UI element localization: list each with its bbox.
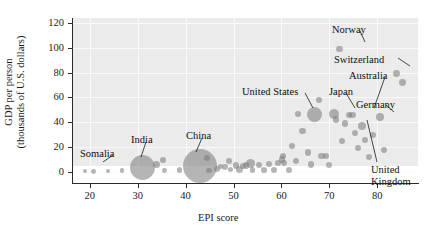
annotation-somalia: Somalia [80,148,114,159]
annotation-united-states: United States [242,86,298,97]
annotation-germany: Germany [356,99,395,110]
annotation-india: India [131,134,153,145]
annotation-norway: Norway [332,24,366,35]
annotations-layer: SomaliaIndiaChinaUnited StatesJapanAustr… [0,0,431,240]
scatter-plot-figure: 02040608010012020304050607080 GDP per pe… [0,0,431,240]
annotation-united-kingdom-line2: Kingdom [371,176,411,187]
annotation-japan: Japan [329,86,353,97]
annotation-australia: Australia [349,70,388,81]
annotation-united-kingdom-line1: United [371,164,400,175]
annotation-china: China [186,130,211,141]
annotation-switzerland: Switzerland [334,54,384,65]
